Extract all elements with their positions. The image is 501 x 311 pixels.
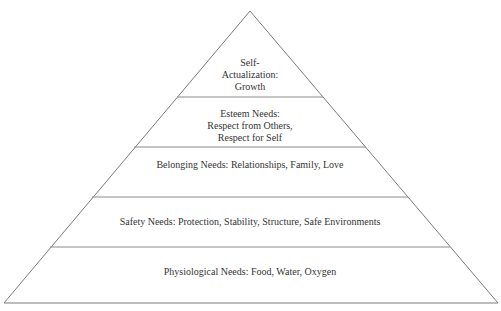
level-text-line: Esteem Needs: <box>207 108 292 120</box>
level-physiological: Physiological Needs: Food, Water, Oxygen <box>164 266 336 278</box>
level-text-line: Actualization: <box>222 69 279 81</box>
level-text-line: Physiological Needs: Food, Water, Oxygen <box>164 266 336 278</box>
level-text-line: Belonging Needs: Relationships, Family, … <box>156 159 343 171</box>
level-text-line: Growth <box>222 81 279 93</box>
level-text-line: Safety Needs: Protection, Stability, Str… <box>120 216 381 228</box>
level-belonging: Belonging Needs: Relationships, Family, … <box>156 159 343 171</box>
level-text-line: Respect from Others, <box>207 120 292 132</box>
level-esteem: Esteem Needs: Respect from Others, Respe… <box>207 108 292 144</box>
level-text-line: Self- <box>222 57 279 69</box>
level-self-actualization: Self- Actualization: Growth <box>222 57 279 93</box>
pyramid-diagram <box>0 0 501 311</box>
level-text-line: Respect for Self <box>207 132 292 144</box>
pyramid-outline <box>4 11 498 303</box>
level-safety: Safety Needs: Protection, Stability, Str… <box>120 216 381 228</box>
